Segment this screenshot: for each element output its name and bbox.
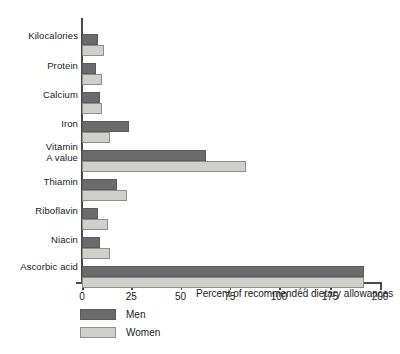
legend-label-women: Women — [126, 327, 160, 338]
x-axis-title: Percent of recommended dietary allowance… — [196, 288, 393, 299]
legend-item-men: Men — [80, 305, 240, 323]
x-tick-label-25: 25 — [126, 291, 137, 302]
clipped-caption — [0, 348, 400, 354]
category-label-ascorbic-acid: Ascorbic acid — [4, 262, 78, 273]
legend-item-women: Women — [80, 323, 240, 341]
bar-women-calcium — [82, 103, 102, 114]
category-label-protein: Protein — [4, 61, 78, 72]
x-tick-label-0: 0 — [79, 291, 85, 302]
category-label-calcium: Calcium — [4, 90, 78, 101]
bar-chart: Kilocalories Protein Calcium Iron Vitami… — [0, 0, 400, 354]
category-label-vitamin-a-value: Vitamin A value — [4, 142, 78, 163]
legend: Men Women — [80, 305, 240, 341]
bar-men-vitamin-a-value — [82, 150, 206, 161]
bar-women-thiamin — [82, 190, 127, 201]
bar-men-iron — [82, 121, 129, 132]
bar-women-riboflavin — [82, 219, 108, 230]
plot-area: 0 25 50 75 100 175 200 // — [82, 18, 382, 282]
category-label-niacin: Niacin — [4, 235, 78, 246]
bar-women-iron — [82, 132, 110, 143]
bar-women-kilocalories — [82, 45, 104, 56]
category-label-riboflavin: Riboflavin — [4, 206, 78, 217]
bar-men-ascorbic-acid — [82, 266, 364, 277]
bar-women-vitamin-a-value — [82, 161, 246, 172]
bar-men-calcium — [82, 92, 100, 103]
bar-women-ascorbic-acid — [82, 277, 364, 288]
legend-swatch-men-icon — [80, 309, 116, 320]
category-label-thiamin: Thiamin — [4, 177, 78, 188]
category-label-iron: Iron — [4, 119, 78, 130]
legend-swatch-women-icon — [80, 327, 116, 338]
bar-men-protein — [82, 63, 96, 74]
legend-label-men: Men — [126, 309, 145, 320]
bar-men-thiamin — [82, 179, 117, 190]
bar-men-riboflavin — [82, 208, 98, 219]
bar-women-niacin — [82, 248, 110, 259]
bar-women-protein — [82, 74, 102, 85]
bar-men-kilocalories — [82, 34, 98, 45]
x-tick-label-50: 50 — [175, 291, 186, 302]
bar-men-niacin — [82, 237, 100, 248]
category-label-kilocalories: Kilocalories — [4, 31, 78, 42]
